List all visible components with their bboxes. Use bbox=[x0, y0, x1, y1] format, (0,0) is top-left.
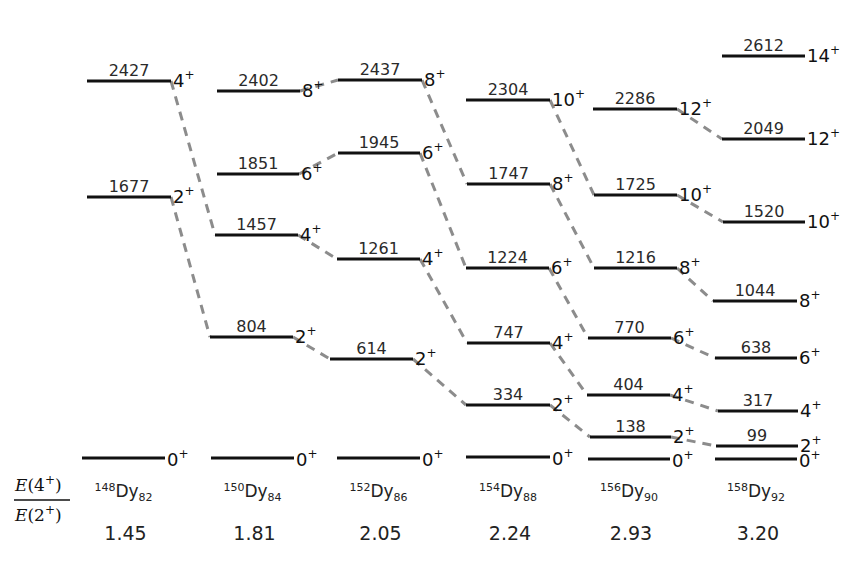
energy-value: 317 bbox=[743, 391, 774, 410]
nucleus-label: 148Dy82 bbox=[94, 481, 152, 504]
energy-value: 2304 bbox=[488, 80, 529, 99]
transition-dashed-line bbox=[420, 259, 467, 343]
energy-value: 2427 bbox=[109, 61, 150, 80]
nucleus-label: 156Dy90 bbox=[600, 481, 658, 504]
energy-ratio-value: 2.24 bbox=[489, 522, 531, 544]
spin-parity-label: 8+ bbox=[552, 171, 574, 194]
energy-value: 614 bbox=[356, 339, 387, 358]
spin-parity-label: 2+ bbox=[173, 184, 195, 207]
spin-parity-label: 4+ bbox=[800, 398, 822, 421]
transition-dashed-line bbox=[422, 80, 467, 184]
energy-value: 2437 bbox=[360, 60, 401, 79]
energy-ratio-value: 1.81 bbox=[233, 522, 275, 544]
spin-parity-label: 0+ bbox=[167, 447, 189, 470]
spin-parity-label: 12+ bbox=[807, 126, 840, 149]
spin-parity-label: 6+ bbox=[422, 140, 444, 163]
energy-value: 804 bbox=[236, 317, 267, 336]
spin-parity-label: 0+ bbox=[422, 447, 444, 470]
energy-value: 2286 bbox=[615, 89, 656, 108]
spin-parity-label: 2+ bbox=[552, 392, 574, 415]
energy-value: 638 bbox=[741, 338, 772, 357]
transition-dashed-line bbox=[171, 81, 215, 235]
energy-ratio-value: 2.05 bbox=[359, 522, 401, 544]
spin-parity-label: 6+ bbox=[673, 325, 695, 348]
spin-parity-label: 6+ bbox=[301, 161, 323, 184]
ratio-label: E(4+) E(2+) bbox=[14, 473, 70, 525]
spin-parity-label: 6+ bbox=[799, 345, 821, 368]
transition-dashed-line bbox=[171, 197, 210, 337]
spin-parity-label: 0+ bbox=[296, 447, 318, 470]
spin-parity-label: 14+ bbox=[807, 43, 840, 66]
ratio-denominator: E(2+) bbox=[14, 503, 62, 525]
nucleus-label: 152Dy86 bbox=[349, 481, 407, 504]
spin-parity-label: 2+ bbox=[673, 424, 695, 447]
spin-parity-label: 4+ bbox=[300, 222, 322, 245]
spin-parity-label: 8+ bbox=[799, 288, 821, 311]
energy-value: 1520 bbox=[744, 202, 785, 221]
spin-parity-label: 10+ bbox=[807, 209, 840, 232]
energy-value: 1457 bbox=[236, 215, 277, 234]
energy-ratio-value: 3.20 bbox=[737, 522, 779, 544]
spin-parity-label: 0+ bbox=[799, 448, 821, 471]
nucleus-label: 150Dy84 bbox=[223, 481, 281, 504]
energy-ratio-value: 1.45 bbox=[104, 522, 146, 544]
energy-value: 1216 bbox=[615, 248, 656, 267]
spin-parity-label: 4+ bbox=[422, 246, 444, 269]
spin-parity-label: 6+ bbox=[551, 255, 573, 278]
ratio-numerator: E(4+) bbox=[14, 473, 62, 495]
energy-value: 334 bbox=[493, 385, 524, 404]
energy-value: 770 bbox=[614, 318, 645, 337]
energy-value: 99 bbox=[747, 426, 767, 445]
energy-value: 1851 bbox=[238, 154, 279, 173]
spin-parity-label: 4+ bbox=[552, 330, 574, 353]
spin-parity-label: 0+ bbox=[552, 446, 574, 469]
energy-value: 1725 bbox=[615, 175, 656, 194]
spin-parity-label: 8+ bbox=[424, 67, 446, 90]
energy-value: 2612 bbox=[743, 36, 784, 55]
energy-ratio-value: 2.93 bbox=[610, 522, 652, 544]
energy-value: 747 bbox=[493, 323, 524, 342]
nucleus-label: 154Dy88 bbox=[479, 481, 537, 504]
level-scheme-diagram: 24274+16772+0+24028+18516+14574+8042+0+2… bbox=[0, 0, 864, 583]
spin-parity-label: 4+ bbox=[173, 68, 195, 91]
spin-parity-label: 0+ bbox=[672, 448, 694, 471]
spin-parity-label: 8+ bbox=[679, 255, 701, 278]
nucleus-label: 158Dy92 bbox=[727, 481, 785, 504]
energy-value: 1677 bbox=[109, 177, 150, 196]
energy-value: 1747 bbox=[488, 164, 529, 183]
energy-value: 2049 bbox=[743, 119, 784, 138]
energy-levels: 24274+16772+0+24028+18516+14574+8042+0+2… bbox=[82, 36, 840, 471]
spin-parity-label: 2+ bbox=[295, 324, 317, 347]
spin-parity-label: 10+ bbox=[679, 182, 712, 205]
transition-dashed-line bbox=[549, 268, 588, 338]
spin-parity-label: 12+ bbox=[679, 96, 712, 119]
energy-value: 1945 bbox=[359, 133, 400, 152]
energy-value: 1224 bbox=[487, 248, 528, 267]
energy-value: 2402 bbox=[238, 71, 279, 90]
spin-parity-label: 8+ bbox=[302, 78, 324, 101]
spin-parity-label: 10+ bbox=[552, 87, 585, 110]
spin-parity-label: 2+ bbox=[415, 346, 437, 369]
energy-value: 1044 bbox=[735, 281, 776, 300]
nucleus-labels: 148Dy821.45150Dy841.81152Dy862.05154Dy88… bbox=[94, 481, 785, 544]
energy-value: 404 bbox=[613, 375, 644, 394]
energy-value: 1261 bbox=[358, 239, 399, 258]
energy-value: 138 bbox=[615, 417, 646, 436]
